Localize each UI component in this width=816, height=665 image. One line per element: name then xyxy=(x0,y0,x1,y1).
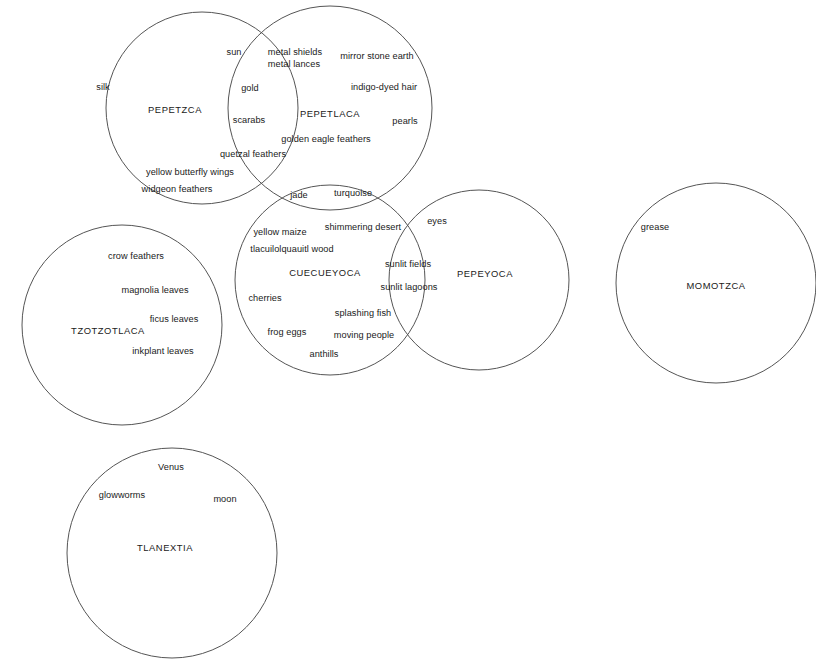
set-name-pepetzca: PEPETZCA xyxy=(148,105,202,115)
venn-item-label: sun xyxy=(227,48,242,58)
set-name-tlanextia: TLANEXTIA xyxy=(137,543,193,553)
venn-item-label: jade xyxy=(290,191,308,201)
venn-item-label: quetzal feathers xyxy=(220,150,286,160)
venn-item-label: sunlit lagoons xyxy=(381,283,438,293)
venn-item-label: shimmering desert xyxy=(325,223,401,233)
venn-item-label: turquoise xyxy=(334,189,372,199)
venn-item-label: scarabs xyxy=(233,116,266,126)
venn-item-label: inkplant leaves xyxy=(132,347,194,357)
venn-item-label: pearls xyxy=(392,117,417,127)
venn-item-label: moving people xyxy=(334,331,394,341)
venn-item-label: anthills xyxy=(310,350,339,360)
set-name-pepeyoca: PEPEYOCA xyxy=(457,269,513,279)
venn-item-label: golden eagle feathers xyxy=(281,135,370,145)
venn-labels-layer: PEPETZCAPEPETLACACUECUEYOCAPEPEYOCATZOTZ… xyxy=(0,0,816,665)
venn-item-label: Venus xyxy=(158,463,184,473)
venn-item-label: tlacuilolquauitl wood xyxy=(250,245,333,255)
venn-item-label: yellow butterfly wings xyxy=(146,168,234,178)
venn-item-label: indigo-dyed hair xyxy=(351,83,417,93)
venn-item-label: metal shields metal lances xyxy=(268,47,322,71)
venn-item-label: glowworms xyxy=(99,491,145,501)
set-name-pepetlaca: PEPETLACA xyxy=(300,109,360,119)
venn-item-label: mirror stone earth xyxy=(340,52,413,62)
set-name-tzotzotlaca: TZOTZOTLACA xyxy=(71,326,145,336)
venn-diagram: PEPETZCAPEPETLACACUECUEYOCAPEPEYOCATZOTZ… xyxy=(0,0,816,665)
venn-item-label: splashing fish xyxy=(335,309,391,319)
venn-item-label: ficus leaves xyxy=(150,315,199,325)
venn-item-label: eyes xyxy=(427,217,447,227)
venn-item-label: yellow maize xyxy=(253,228,306,238)
venn-item-label: crow feathers xyxy=(108,252,164,262)
venn-item-label: moon xyxy=(213,495,236,505)
venn-item-label: sunlit fields xyxy=(385,260,431,270)
set-name-cuecueyoca: CUECUEYOCA xyxy=(289,268,361,278)
venn-item-label: silk xyxy=(96,83,109,93)
venn-item-label: gold xyxy=(241,84,259,94)
set-name-momotzca: MOMOTZCA xyxy=(686,281,745,291)
venn-item-label: cherries xyxy=(248,294,281,304)
venn-item-label: frog eggs xyxy=(268,328,307,338)
venn-item-label: grease xyxy=(641,223,669,233)
venn-item-label: widgeon feathers xyxy=(142,185,213,195)
venn-item-label: magnolia leaves xyxy=(121,286,188,296)
